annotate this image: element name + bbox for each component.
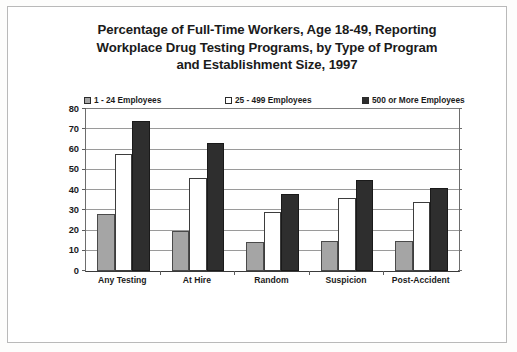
bar: [413, 202, 431, 271]
y-axis-tick-label: 40: [53, 186, 79, 195]
bar: [281, 194, 299, 271]
legend-label: 25 - 499 Employees: [235, 95, 312, 105]
chart-page: Percentage of Full-Time Workers, Age 18-…: [0, 0, 517, 352]
x-axis-tick-label: Post-Accident: [371, 275, 471, 285]
bar: [395, 241, 413, 271]
legend-label: 500 or More Employees: [372, 95, 465, 105]
y-axis-tick-label: 80: [53, 105, 79, 114]
bar: [246, 242, 264, 271]
chart-frame: Percentage of Full-Time Workers, Age 18-…: [7, 6, 507, 343]
legend-item-500-or-more-employees: 500 or More Employees: [362, 95, 465, 105]
bar-group: [321, 109, 374, 271]
x-axis-tick-mark: [160, 271, 161, 275]
bar: [189, 178, 207, 271]
bar-group: [246, 109, 299, 271]
legend-label: 1 - 24 Employees: [94, 95, 161, 105]
legend-swatch-icon: [84, 97, 91, 104]
y-axis-labels: 01020304050607080: [51, 109, 79, 271]
bar: [430, 188, 448, 271]
chart-legend: 1 - 24 Employees 25 - 499 Employees 500 …: [84, 95, 459, 108]
bar: [356, 180, 374, 271]
bar: [132, 121, 150, 271]
bar: [172, 231, 190, 272]
bar: [115, 154, 133, 271]
page-title: Percentage of Full-Time Workers, Age 18-…: [32, 21, 502, 74]
x-axis-tick-mark: [234, 271, 235, 275]
x-axis-tick-mark: [383, 271, 384, 275]
x-axis-labels: Any TestingAt HireRandomSuspicionPost-Ac…: [85, 275, 460, 289]
bar-group: [172, 109, 225, 271]
bar: [264, 212, 282, 271]
y-axis-tick-label: 20: [53, 226, 79, 235]
y-axis-tick-label: 30: [53, 206, 79, 215]
legend-item-25-499-employees: 25 - 499 Employees: [225, 95, 312, 105]
bar: [321, 241, 339, 271]
y-axis-tick-label: 10: [53, 246, 79, 255]
plot-area: [85, 109, 460, 272]
bar-group: [97, 109, 150, 271]
title-line-3: and Establishment Size, 1997: [32, 56, 502, 74]
bar: [97, 214, 115, 271]
legend-swatch-icon: [362, 97, 369, 104]
y-axis-tick-label: 70: [53, 125, 79, 134]
title-line-1: Percentage of Full-Time Workers, Age 18-…: [32, 21, 502, 39]
legend-item-1-24-employees: 1 - 24 Employees: [84, 95, 161, 105]
legend-swatch-icon: [225, 97, 232, 104]
bar: [338, 198, 356, 271]
title-line-2: Workplace Drug Testing Programs, by Type…: [32, 39, 502, 57]
bar: [207, 143, 225, 271]
x-axis-tick-mark: [309, 271, 310, 275]
y-axis-tick-label: 50: [53, 165, 79, 174]
bar-group: [395, 109, 448, 271]
y-axis-tick-label: 60: [53, 145, 79, 154]
